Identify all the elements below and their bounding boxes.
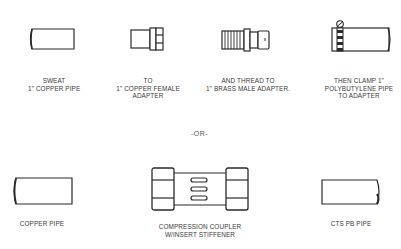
- copper-pipe-icon: [12, 176, 74, 206]
- sweat-copper-pipe-figure: [28, 26, 76, 52]
- compression-coupler-icon: [150, 166, 250, 212]
- pb-pipe-icon: [320, 178, 382, 206]
- polybutylene-pipe-clamp-caption: THEN CLAMP 1" POLYBUTYLENE PIPE TO ADAPT…: [323, 77, 395, 100]
- copper-female-adapter-figure: [130, 26, 164, 52]
- copper-pipe-caption: COPPER PIPE: [14, 220, 70, 228]
- female-adapter-icon: [130, 26, 164, 52]
- copper-pipe-icon: [28, 26, 76, 52]
- copper-female-adapter-caption: TO 1" COPPER FEMALE ADAPTER: [113, 77, 183, 100]
- compression-coupler-caption: COMPRESSION COUPLER W/INSERT STIFFENER: [150, 223, 250, 238]
- copper-pipe-figure: [12, 176, 74, 206]
- compression-coupler-figure: [150, 166, 250, 212]
- male-adapter-icon: [221, 27, 271, 53]
- brass-male-adapter-caption: AND THREAD TO 1" BRASS MALE ADAPTER.: [204, 77, 292, 92]
- or-separator: -OR-: [191, 130, 208, 137]
- cts-pb-pipe-figure: [320, 178, 382, 206]
- polybutylene-pipe-clamp-figure: [330, 18, 392, 54]
- cts-pb-pipe-caption: CTS PB PIPE: [322, 220, 380, 228]
- sweat-copper-pipe-caption: SWEAT 1" COPPER PIPE: [28, 77, 80, 92]
- brass-male-adapter-figure: [221, 27, 271, 53]
- clamped-pipe-icon: [330, 18, 392, 54]
